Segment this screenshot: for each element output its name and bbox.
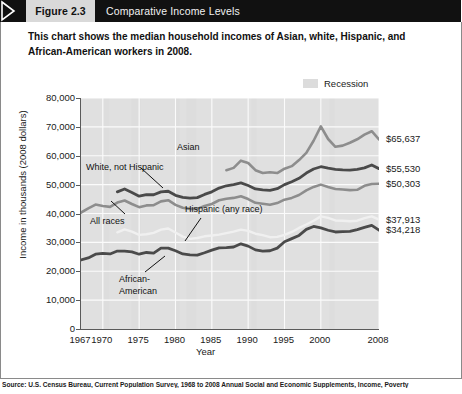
y-tick-label: 70,000: [19, 121, 75, 132]
recession-swatch-icon: [303, 79, 318, 88]
x-tick-label: 2008: [358, 334, 398, 345]
figure-subtitle: This chart shows the median household in…: [28, 29, 428, 59]
series-end-value: $65,637: [386, 133, 420, 144]
source-note: Source: U.S. Census Bureau, Current Popu…: [2, 381, 461, 388]
annotation-african-american-line2: American: [119, 286, 157, 297]
series-end-value: $37,913: [386, 214, 420, 225]
y-tick-label: 60,000: [19, 150, 75, 161]
y-tick-label: 30,000: [19, 236, 75, 247]
recession-legend-label: Recession: [324, 78, 368, 89]
x-tick-label: 1975: [118, 334, 158, 345]
series-end-value: $55,530: [386, 163, 420, 174]
y-tick-label: 20,000: [19, 265, 75, 276]
y-tick-label: 0: [19, 323, 75, 334]
annotation-all-races: All races: [90, 216, 125, 227]
x-tick-label: 1995: [264, 334, 304, 345]
x-tick-label: 1970: [82, 334, 122, 345]
y-tick-label: 10,000: [19, 294, 75, 305]
y-tick-label: 50,000: [19, 179, 75, 190]
y-tick-label: 40,000: [19, 208, 75, 219]
figure-banner: Figure 2.3 Comparative Income Levels: [0, 0, 461, 22]
chart-container: Recession Income in thousands (2008 doll…: [0, 74, 461, 370]
x-tick-label: 1990: [227, 334, 267, 345]
series-end-value: $50,303: [386, 178, 420, 189]
figure-title: Comparative Income Levels: [106, 0, 240, 22]
x-tick-label: 1985: [191, 334, 231, 345]
x-tick-label: 2000: [300, 334, 340, 345]
x-tick-label: 1980: [154, 334, 194, 345]
annotation-white-not-hispanic: White, not Hispanic: [86, 162, 164, 173]
y-tick-label: 80,000: [19, 92, 75, 103]
annotation-hispanic: Hispanic (any race): [185, 204, 263, 215]
chart-legend: Recession: [303, 78, 368, 89]
chevron-right-icon: [0, 0, 26, 22]
x-axis-title: Year: [196, 346, 215, 357]
series-end-value: $34,218: [386, 224, 420, 235]
annotation-african-american-line1: African-: [119, 274, 150, 285]
annotation-asian: Asian: [177, 142, 200, 153]
figure-number-label: Figure 2.3: [35, 5, 86, 17]
figure-number-box: Figure 2.3: [26, 0, 95, 22]
plot-area: Asian White, not Hispanic All races Hisp…: [80, 98, 379, 330]
